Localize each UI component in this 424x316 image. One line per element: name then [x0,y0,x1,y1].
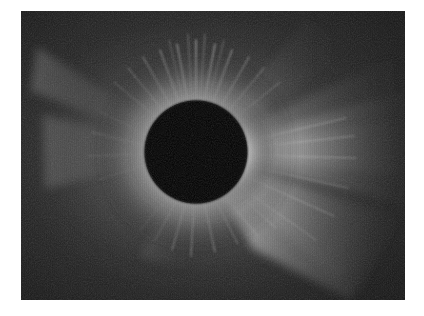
eclipse-scene [21,11,405,300]
eclipse-photograph [21,11,405,300]
page-root: Total Solar Eclipse Black lunar disk sil… [0,0,424,316]
lunar-disk [144,100,247,203]
